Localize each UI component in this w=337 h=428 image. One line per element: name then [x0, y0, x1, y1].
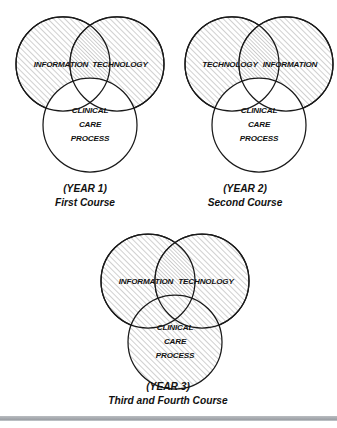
- label-left-circle-year-1: INFORMATION: [34, 60, 89, 69]
- label-bottom-circle-line3-year-2: PROCESS: [240, 134, 279, 143]
- label-right-circle-year-2: INFORMATION: [263, 60, 318, 69]
- label-bottom-circle-line3-year-3: PROCESS: [156, 351, 195, 360]
- caption-year-2: (YEAR 2): [223, 183, 267, 194]
- label-bottom-circle-line2-year-1: CARE: [79, 120, 102, 129]
- venn-diagram-figure: INFORMATION TECHNOLOGY CLINICAL CARE PRO…: [0, 0, 337, 428]
- label-bottom-circle-line3-year-1: PROCESS: [71, 134, 110, 143]
- label-bottom-circle-line1-year-2: CLINICAL: [241, 106, 278, 115]
- caption-course-year-1: First Course: [55, 197, 115, 208]
- label-bottom-circle-line1-year-3: CLINICAL: [157, 323, 194, 332]
- caption-course-year-3: Third and Fourth Course: [108, 395, 228, 406]
- label-right-circle-year-3: TECHNOLOGY: [178, 277, 234, 286]
- label-bottom-circle-line2-year-2: CARE: [248, 120, 271, 129]
- label-left-circle-year-3: INFORMATION: [119, 277, 174, 286]
- diagram-year-3: INFORMATION TECHNOLOGY CLINICAL CARE PRO…: [101, 234, 249, 406]
- label-bottom-circle-line2-year-3: CARE: [164, 337, 187, 346]
- bottom-divider-rule: [0, 416, 337, 421]
- caption-year-1: (YEAR 1): [63, 183, 107, 194]
- label-right-circle-year-1: TECHNOLOGY: [92, 60, 148, 69]
- diagram-year-1: INFORMATION TECHNOLOGY CLINICAL CARE PRO…: [16, 17, 164, 208]
- caption-year-3: (YEAR 3): [146, 381, 190, 392]
- label-bottom-circle-line1-year-1: CLINICAL: [72, 106, 109, 115]
- label-left-circle-year-2: TECHNOLOGY: [202, 60, 258, 69]
- diagram-year-2: TECHNOLOGY INFORMATION CLINICAL CARE PRO…: [185, 17, 333, 208]
- caption-course-year-2: Second Course: [208, 197, 283, 208]
